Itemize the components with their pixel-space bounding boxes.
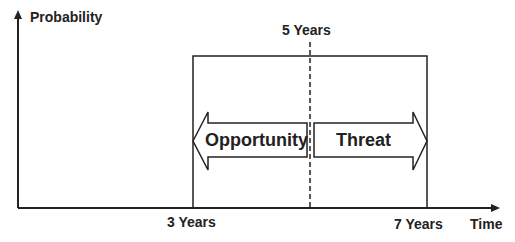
y-axis-arrowhead-icon: [14, 10, 22, 19]
x-axis-label: Time: [470, 216, 502, 232]
diagram-canvas: [0, 0, 515, 242]
opportunity-label: Opportunity: [205, 130, 305, 151]
x-tick-7-years: 7 Years: [394, 216, 443, 232]
y-axis-label: Probability: [30, 9, 102, 25]
five-year-label: 5 Years: [282, 22, 331, 38]
x-tick-3-years: 3 Years: [167, 214, 216, 230]
threat-label: Threat: [316, 130, 411, 151]
x-axis-arrowhead-icon: [491, 204, 500, 212]
